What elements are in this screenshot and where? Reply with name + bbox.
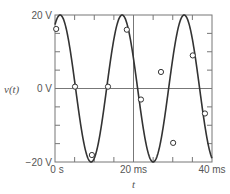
y-axis-label: v(t) [4,83,20,96]
x-tick-label: 40 ms [198,164,225,175]
chart: 20 V0 V−20 V0 s20 ms40 msv(t)t [0,0,230,194]
sample-marker [54,26,59,31]
x-tick-label: 20 ms [120,164,147,175]
x-axis-label: t [132,178,136,190]
sample-marker [171,140,176,145]
y-tick-label: 0 V [37,83,52,94]
sample-marker [158,69,163,74]
sample-marker [105,84,110,89]
sample-marker [202,111,207,116]
y-tick-label: 20 V [31,10,52,21]
y-tick-label: −20 V [26,157,53,168]
sample-marker [124,27,129,32]
sample-marker [72,84,77,89]
sample-marker [138,97,143,102]
sample-marker [89,152,94,157]
x-tick-label: 0 s [50,164,63,175]
sample-marker [190,53,195,58]
